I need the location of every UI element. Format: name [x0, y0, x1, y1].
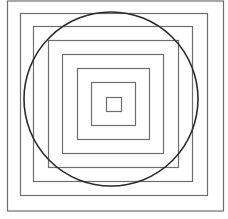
square-7	[92, 83, 136, 126]
square-1	[8, 1, 224, 211]
square-3	[34, 27, 193, 182]
squares-group	[8, 1, 224, 211]
square-6	[78, 69, 150, 140]
square-4	[49, 41, 179, 168]
square-8	[107, 98, 122, 112]
circle	[24, 12, 198, 186]
concentric-squares-diagram	[0, 0, 228, 219]
